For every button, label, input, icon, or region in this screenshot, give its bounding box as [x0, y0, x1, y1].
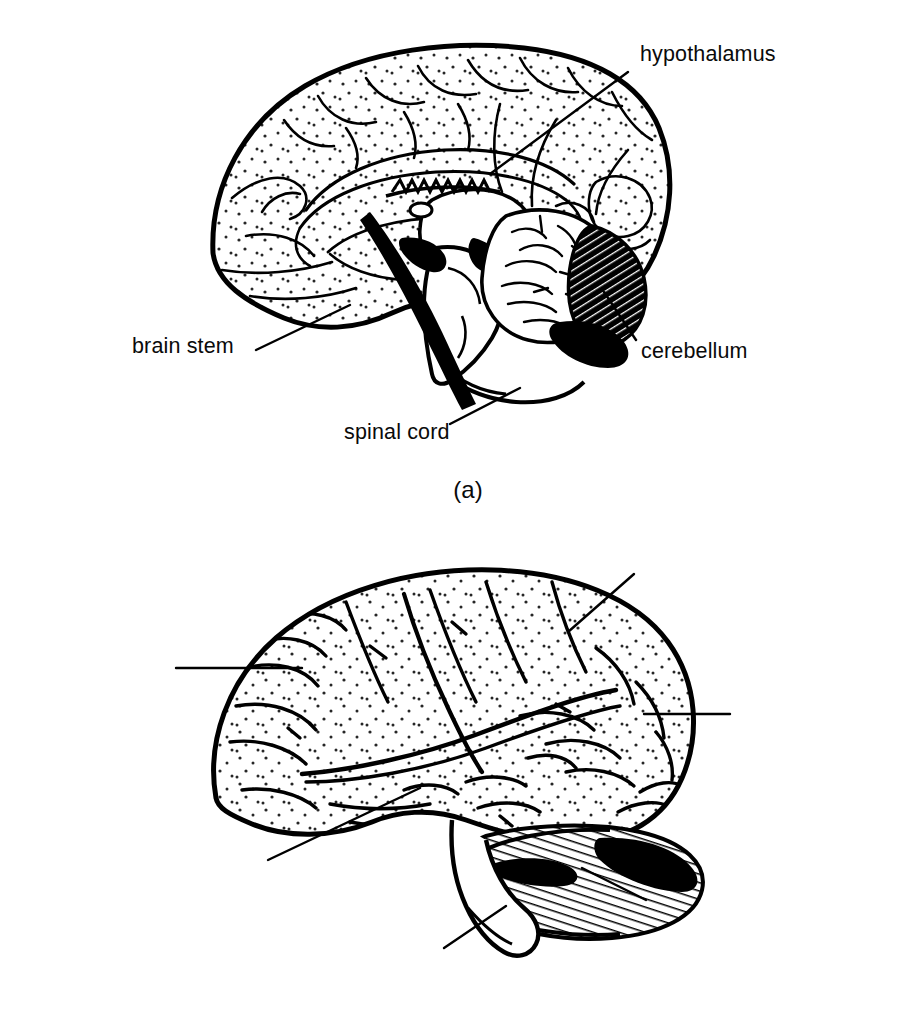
panel-caption-a: (a): [440, 478, 496, 502]
brain-figure: hypothalamus brain stem cerebellum spina…: [0, 0, 916, 1018]
label-brain-stem: brain stem: [132, 336, 234, 358]
panel-a-illustration: [0, 0, 916, 520]
panel-b-lateral: parietal lobe frontal lobe occipital lob…: [0, 520, 916, 1018]
panel-b-illustration: [0, 520, 916, 1018]
label-cerebellum-panel-a: cerebellum: [641, 341, 748, 363]
panel-a-midsagittal: hypothalamus brain stem cerebellum spina…: [0, 0, 916, 520]
label-hypothalamus: hypothalamus: [640, 44, 776, 66]
label-spinal-cord-panel-a: spinal cord: [344, 422, 450, 444]
